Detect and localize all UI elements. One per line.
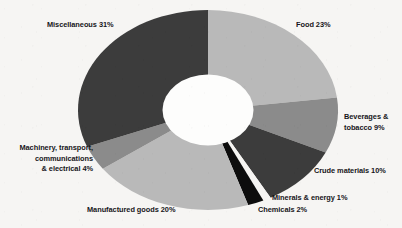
slice-label-miscellaneous: Miscellaneous 31% <box>47 20 114 31</box>
slice-label-chemicals-text: Chemicals 2% <box>258 205 307 214</box>
slice-label-machinery-line1: Machinery, transport, <box>2 143 93 154</box>
donut-center-hole <box>163 75 254 146</box>
slice-label-manufactured-goods-text: Manufactured goods 20% <box>87 205 175 214</box>
slice-label-minerals-energy-text: Minerals & energy 1% <box>272 193 347 202</box>
slice-label-minerals-energy: Minerals & energy 1% <box>272 193 347 204</box>
slice-label-food: Food 23% <box>296 20 331 31</box>
slice-label-miscellaneous-text: Miscellaneous 31% <box>47 20 114 29</box>
slice-label-chemicals: Chemicals 2% <box>258 205 307 216</box>
slice-label-crude-materials: Crude materials 10% <box>314 166 386 177</box>
slice-label-beverages-line1: Beverages & <box>344 112 388 123</box>
slice-label-machinery-transport: Machinery, transport, communications & e… <box>2 143 93 175</box>
slice-label-beverages-line2: tobacco 9% <box>344 123 388 134</box>
slice-label-manufactured-goods: Manufactured goods 20% <box>87 205 175 216</box>
slice-label-beverages-tobacco: Beverages & tobacco 9% <box>344 112 388 133</box>
slice-label-machinery-line2: communications <box>2 154 93 165</box>
slice-label-machinery-line3: & electrical 4% <box>2 164 93 175</box>
slice-label-food-text: Food 23% <box>296 20 331 29</box>
slice-label-crude-materials-text: Crude materials 10% <box>314 166 386 175</box>
pie-chart-figure: Miscellaneous 31% Food 23% Beverages & t… <box>0 0 402 228</box>
